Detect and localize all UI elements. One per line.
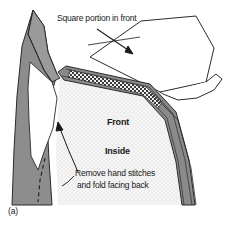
illustration-canvas xyxy=(0,0,229,225)
annotation-remove-line1: Remove hand stitches xyxy=(75,168,155,178)
figure-illustration-a: Square portion in front Front Inside Rem… xyxy=(0,0,229,225)
figure-label: (a) xyxy=(8,206,18,216)
annotation-remove-line2: and fold facing back xyxy=(77,180,149,190)
annotation-front: Front xyxy=(107,117,129,127)
annotation-square-portion: Square portion in front xyxy=(57,13,137,23)
annotation-inside: Inside xyxy=(105,146,130,156)
